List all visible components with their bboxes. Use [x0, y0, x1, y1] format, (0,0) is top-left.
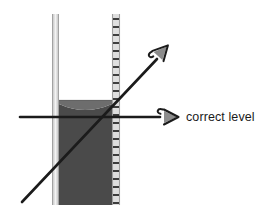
correct-level-label: correct level — [186, 110, 255, 124]
hooked-arrowhead-icon-upper — [148, 40, 173, 66]
diagram-canvas: correct level — [0, 0, 265, 220]
cylinder-left-wall — [52, 14, 59, 205]
